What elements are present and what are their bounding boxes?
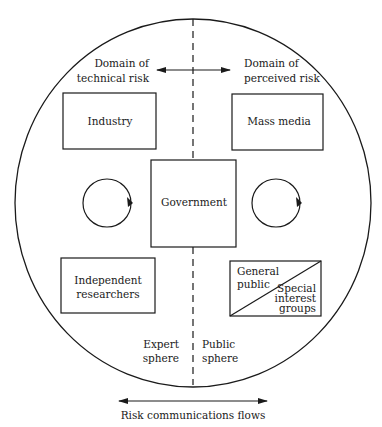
expert-sphere-label-line1: Expert [143, 338, 180, 350]
domain-technical-label-line2: technical risk [77, 72, 150, 84]
mass-media-box: Mass media [232, 94, 323, 150]
domain-perceived-label-line1: Domain of [244, 57, 300, 69]
independent-label-line2: researchers [76, 288, 139, 300]
independent-researchers-box: Independent researchers [61, 258, 155, 313]
government-label: Government [161, 196, 228, 208]
mass-media-label: Mass media [247, 115, 311, 127]
domain-technical-label-line1: Domain of [94, 57, 150, 69]
right-cycle-icon [252, 179, 302, 227]
risk-communication-diagram: Domain of technical risk Domain of perce… [0, 0, 382, 427]
left-cycle-icon [83, 179, 133, 227]
special-interest-label-line3: groups [279, 302, 316, 314]
industry-label: Industry [88, 115, 133, 127]
expert-sphere-label-line2: sphere [143, 352, 179, 364]
domain-perceived-label-line2: perceived risk [244, 72, 320, 84]
government-box: Government [151, 160, 236, 247]
general-public-label-line1: General [237, 265, 280, 277]
risk-flows-caption: Risk communications flows [121, 409, 266, 421]
public-sphere-label-line1: Public [202, 338, 235, 350]
general-public-label-line2: public [237, 278, 270, 290]
public-groups-split-box: General public Special interest groups [230, 261, 321, 316]
public-sphere-label-line2: sphere [202, 352, 238, 364]
independent-label-line1: Independent [74, 274, 142, 286]
industry-box: Industry [63, 93, 156, 149]
